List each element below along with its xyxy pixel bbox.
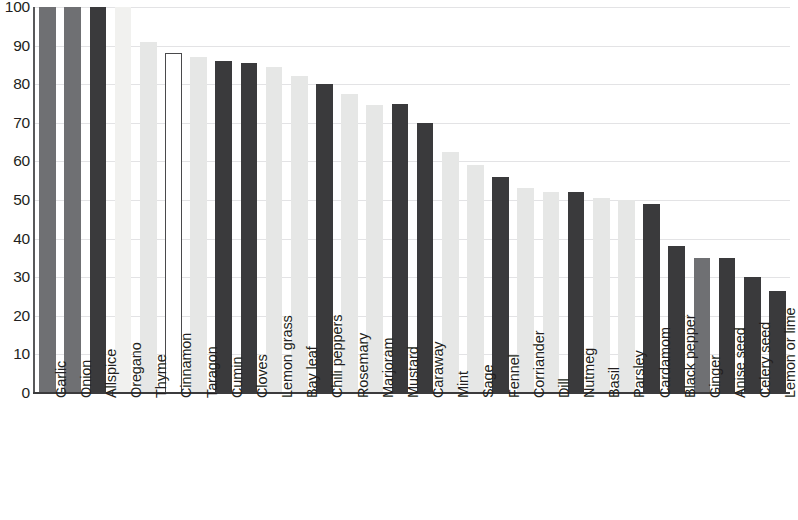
x-tick-label: Mustard — [406, 346, 421, 398]
y-tick-label: 10 — [0, 347, 30, 363]
x-tick-label: Cumin — [230, 357, 245, 398]
y-tick-label: 20 — [0, 308, 30, 324]
y-tick-label: 80 — [0, 76, 30, 92]
y-tick-label: 60 — [0, 154, 30, 170]
x-tick-label: Parsley — [632, 350, 647, 398]
bar — [115, 7, 132, 393]
y-tick-label: 50 — [0, 192, 30, 208]
x-tick-label: Corriander — [532, 331, 547, 399]
x-tick-label: Garlic — [54, 361, 69, 398]
x-tick-label: Dill — [557, 378, 572, 398]
x-tick-label: Chili peppers — [330, 315, 345, 398]
bar — [467, 165, 484, 393]
bars-group — [35, 7, 790, 393]
x-tick-label: Lemon or lime — [783, 307, 798, 398]
y-tick-label: 30 — [0, 269, 30, 285]
x-tick-label: Mint — [456, 371, 471, 398]
x-tick-label: Taragon — [205, 346, 220, 398]
x-tick-label: Onion — [79, 360, 94, 398]
x-tick-label: Basil — [607, 367, 622, 398]
x-tick-label: Cinnamon — [179, 333, 194, 398]
bar — [39, 7, 56, 393]
y-tick-label: 70 — [0, 115, 30, 131]
x-axis: GarlicOnionAllspiceOreganoThymeCinnamonT… — [35, 398, 790, 518]
x-tick-label: Rosemary — [356, 333, 371, 398]
bar — [140, 42, 157, 393]
x-tick-label: Black pepper — [683, 315, 698, 398]
x-tick-label: Anise seed — [733, 327, 748, 398]
y-tick-label: 100 — [0, 0, 30, 15]
x-tick-label: Thyme — [154, 354, 169, 398]
x-tick-label: Caraway — [431, 341, 446, 398]
x-tick-label: Nutmeg — [582, 348, 597, 398]
bar — [90, 7, 107, 393]
x-tick-label: Oregano — [129, 342, 144, 398]
x-tick-label: Ginger — [708, 355, 723, 398]
x-tick-label: Marjoram — [381, 338, 396, 398]
y-tick-label: 90 — [0, 38, 30, 54]
x-tick-label: Allspice — [104, 349, 119, 398]
y-tick-label: 0 — [0, 385, 30, 401]
bar — [64, 7, 81, 393]
y-tick-label: 40 — [0, 231, 30, 247]
x-tick-label: Sage — [481, 365, 496, 398]
x-tick-label: Celery seed — [758, 322, 773, 398]
x-tick-label: Bay leaf — [305, 346, 320, 398]
bar — [241, 63, 258, 393]
y-axis: 0102030405060708090100 — [0, 0, 30, 394]
x-tick-label: Cardamom — [658, 327, 673, 398]
x-tick-label: Cloves — [255, 354, 270, 398]
x-tick-label: Fennel — [507, 354, 522, 398]
x-tick-label: Lemon grass — [280, 315, 295, 398]
plot-area — [35, 7, 790, 393]
bar — [215, 61, 232, 393]
